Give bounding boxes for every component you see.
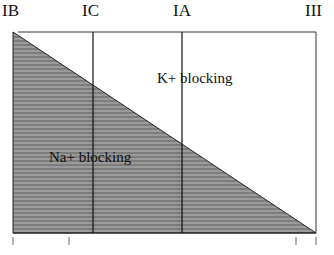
k-blocking-label: K+ blocking xyxy=(157,70,233,86)
na-k-blocking-diagram: IB IC IA III Na+ blocking K+ blocking xyxy=(0,0,334,255)
class-label-ia: IA xyxy=(173,2,191,20)
na-blocking-region xyxy=(13,32,316,233)
class-label-ib: IB xyxy=(2,2,19,20)
class-label-iii: III xyxy=(305,2,322,20)
diagram-canvas xyxy=(0,0,334,255)
na-blocking-label: Na+ blocking xyxy=(49,149,131,165)
class-label-ic: IC xyxy=(82,2,99,20)
